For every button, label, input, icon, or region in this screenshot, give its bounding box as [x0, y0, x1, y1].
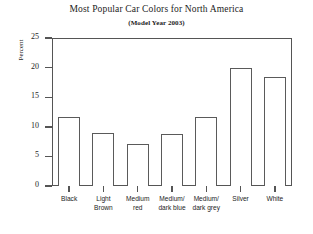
y-tick-label: 25 — [31, 32, 39, 41]
y-tick-mark — [45, 97, 52, 98]
bar — [161, 134, 183, 186]
bar — [195, 117, 217, 186]
x-tick-mark — [137, 186, 138, 192]
x-axis-label: White — [252, 195, 298, 204]
bar — [92, 133, 114, 186]
y-tick-mark — [45, 67, 52, 68]
bar — [264, 77, 286, 186]
y-tick-mark — [45, 185, 52, 186]
y-axis-label: Percent — [17, 15, 25, 85]
bar — [127, 144, 149, 186]
x-tick-mark — [171, 186, 172, 192]
x-axis-label-line: dark grey — [183, 204, 229, 213]
x-tick-mark — [103, 186, 104, 192]
y-tick-mark — [45, 37, 52, 38]
chart-container: Most Popular Car Colors for North Americ… — [0, 0, 313, 234]
x-tick-mark — [68, 186, 69, 192]
x-tick-mark — [240, 186, 241, 192]
x-axis-label-line: White — [252, 195, 298, 204]
x-tick-mark — [274, 186, 275, 192]
y-tick-label: 15 — [31, 91, 39, 100]
chart-title: Most Popular Car Colors for North Americ… — [0, 4, 313, 14]
y-tick-label: 20 — [31, 62, 39, 71]
bar — [58, 117, 80, 186]
y-tick-label: 5 — [35, 150, 39, 159]
x-tick-mark — [206, 186, 207, 192]
y-tick-label: 10 — [31, 121, 39, 130]
y-tick-mark — [45, 156, 52, 157]
bar — [230, 68, 252, 186]
y-tick-label: 0 — [35, 180, 39, 189]
chart-subtitle: (Model Year 2003) — [0, 19, 313, 27]
y-tick-mark — [45, 126, 52, 127]
bars-layer — [52, 38, 292, 186]
